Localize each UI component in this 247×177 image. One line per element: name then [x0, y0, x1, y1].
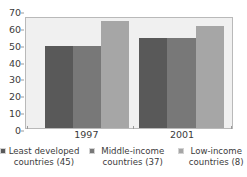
legend-swatch-icon — [178, 148, 184, 154]
y-axis-tick-label: 40 — [9, 59, 21, 69]
y-axis-tick-mark — [21, 29, 24, 30]
y-axis-tick-mark — [21, 80, 24, 81]
y-axis-tick-label: 70 — [9, 8, 21, 18]
x-axis-tick-label: 1997 — [74, 130, 98, 140]
y-axis-tick-mark — [21, 114, 24, 115]
y-axis-tick-label: 30 — [9, 76, 21, 86]
y-axis-tick-mark — [21, 97, 24, 98]
legend-swatch-icon — [0, 148, 6, 154]
bar — [196, 26, 224, 128]
x-axis-tick-label: 2001 — [170, 130, 194, 140]
legend-item[interactable]: Least developed countries (45) — [0, 146, 80, 167]
y-axis-tick-mark — [21, 13, 24, 14]
y-axis-tick-label: 60 — [9, 25, 21, 35]
y-axis: 010203040506070 — [0, 13, 24, 131]
bar-group — [139, 18, 223, 128]
x-axis-tick-mark — [133, 126, 134, 129]
y-axis-tick-mark — [21, 46, 24, 47]
y-axis-tick-label: 10 — [9, 109, 21, 119]
legend-label: Low-income countries (8) — [186, 146, 247, 167]
bar — [73, 46, 101, 128]
bar — [45, 46, 73, 128]
bar-chart: 010203040506070 19972001 Least developed… — [0, 0, 247, 177]
legend-item[interactable]: Middle-income countries (37) — [89, 146, 169, 167]
x-axis: 19972001 — [25, 130, 233, 143]
plot-area — [25, 17, 233, 129]
bars-layer — [26, 18, 232, 128]
legend-label: Middle-income countries (37) — [97, 146, 169, 167]
bar-group — [45, 18, 129, 128]
x-axis-tick-mark — [231, 126, 232, 129]
y-axis-tick-mark — [21, 63, 24, 64]
legend-label: Least developed countries (45) — [8, 146, 80, 167]
chart-legend: Least developed countries (45)Middle-inc… — [0, 146, 247, 167]
legend-item[interactable]: Low-income countries (8) — [178, 146, 247, 167]
plot-region: 010203040506070 19972001 — [0, 0, 247, 143]
y-axis-tick-mark — [21, 131, 24, 132]
x-axis-tick-mark — [27, 126, 28, 129]
bar — [139, 38, 167, 128]
bar — [101, 21, 129, 128]
bar — [167, 38, 195, 128]
y-axis-tick-label: 50 — [9, 42, 21, 52]
y-axis-tick-label: 20 — [9, 93, 21, 103]
legend-swatch-icon — [89, 148, 95, 154]
